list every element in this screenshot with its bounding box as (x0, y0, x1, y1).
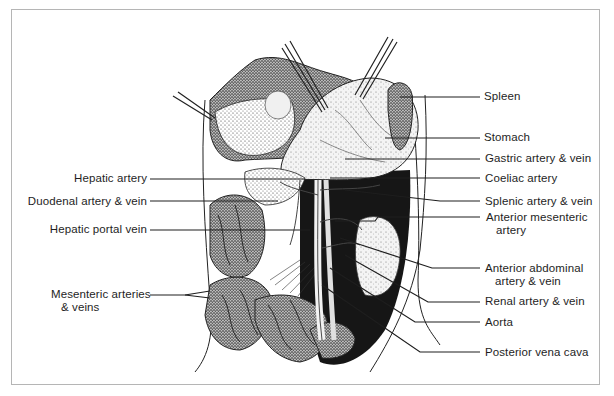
label-spleen: Spleen (484, 90, 520, 103)
label-mesenteric-line2: & veins (51, 301, 151, 314)
label-renal-artery-vein: Renal artery & vein (485, 295, 585, 308)
label-anterior-mesenteric-line2: artery (486, 224, 588, 237)
label-hepatic-artery: Hepatic artery (74, 172, 147, 185)
label-anterior-abdominal-line1: Anterior abdominal (485, 262, 583, 275)
label-anterior-mesenteric-artery: Anterior mesenteric artery (486, 211, 588, 237)
label-anterior-abdominal-line2: artery & vein (485, 275, 583, 288)
label-posterior-vena-cava: Posterior vena cava (485, 346, 589, 359)
label-aorta: Aorta (485, 316, 513, 329)
label-anterior-abdominal-artery-vein: Anterior abdominal artery & vein (485, 262, 583, 288)
label-coeliac-artery: Coeliac artery (485, 172, 557, 185)
label-anterior-mesenteric-line1: Anterior mesenteric (486, 211, 588, 224)
label-hepatic-portal-vein: Hepatic portal vein (50, 223, 147, 236)
label-gastric-artery-vein: Gastric artery & vein (485, 152, 591, 165)
label-mesenteric-line1: Mesenteric arteries (51, 288, 151, 301)
label-mesenteric-arteries-veins: Mesenteric arteries & veins (51, 288, 151, 314)
label-duodenal-artery-vein: Duodenal artery & vein (28, 195, 147, 208)
label-splenic-artery-vein: Splenic artery & vein (485, 195, 593, 208)
label-stomach: Stomach (484, 131, 530, 144)
pancreas (245, 168, 305, 205)
